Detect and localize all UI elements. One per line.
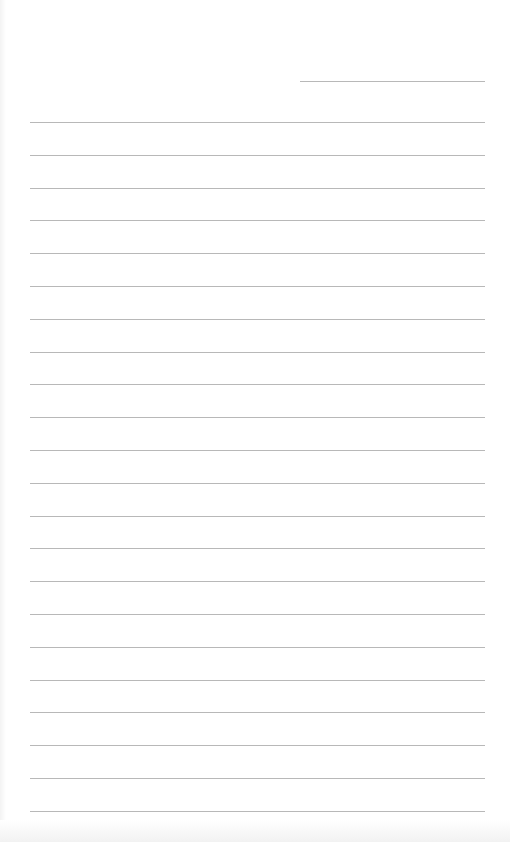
ruled-line bbox=[30, 319, 485, 320]
ruled-line bbox=[30, 614, 485, 615]
ruled-line bbox=[30, 384, 485, 385]
page-edge-shadow bbox=[0, 0, 6, 842]
header-write-line bbox=[300, 81, 485, 82]
ruled-line bbox=[30, 647, 485, 648]
ruled-line bbox=[30, 548, 485, 549]
ruled-line bbox=[30, 581, 485, 582]
ruled-line bbox=[30, 516, 485, 517]
ruled-line bbox=[30, 253, 485, 254]
ruled-line bbox=[30, 286, 485, 287]
ruled-line bbox=[30, 811, 485, 812]
ruled-line bbox=[30, 352, 485, 353]
ruled-line bbox=[30, 417, 485, 418]
ruled-line bbox=[30, 745, 485, 746]
ruled-line bbox=[30, 778, 485, 779]
ruled-line bbox=[30, 450, 485, 451]
ruled-line bbox=[30, 122, 485, 123]
ruled-line bbox=[30, 155, 485, 156]
ruled-line bbox=[30, 220, 485, 221]
ruled-line bbox=[30, 483, 485, 484]
ruled-line bbox=[30, 188, 485, 189]
ruled-line bbox=[30, 680, 485, 681]
page-bottom-shadow bbox=[0, 820, 510, 842]
lined-paper-page bbox=[0, 0, 510, 842]
ruled-line bbox=[30, 712, 485, 713]
